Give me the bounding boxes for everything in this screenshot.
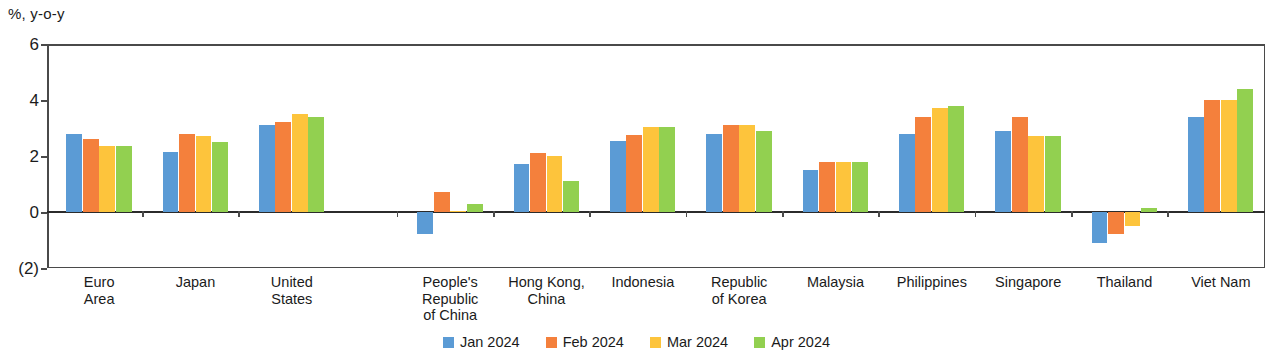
category-label: Viet Nam: [1173, 274, 1269, 291]
bar: [514, 164, 530, 212]
category-label: UnitedStates: [244, 274, 340, 307]
category-axis-tick: [1071, 211, 1073, 217]
bar: [450, 211, 466, 212]
bar: [434, 192, 450, 212]
bar: [1188, 117, 1204, 212]
bar: [66, 134, 82, 212]
bar: [99, 146, 115, 212]
category-label-line: Republic: [691, 274, 787, 291]
category-label-line: Indonesia: [595, 274, 691, 291]
axis-frame-left: [47, 44, 49, 268]
category-label-line: Singapore: [980, 274, 1076, 291]
bar: [626, 135, 642, 212]
legend-swatch-icon: [650, 337, 661, 348]
category-label-line: Area: [51, 291, 147, 308]
category-label-line: Republic: [402, 291, 498, 308]
bar: [899, 134, 915, 212]
category-label: Indonesia: [595, 274, 691, 291]
bar: [932, 108, 948, 212]
category-label-line: Euro: [51, 274, 147, 291]
bar: [995, 131, 1011, 212]
bar: [756, 131, 772, 212]
y-axis-tick: [41, 156, 47, 158]
legend-label: Apr 2024: [771, 334, 830, 350]
bar: [1028, 136, 1044, 212]
bar: [643, 127, 659, 212]
bar: [196, 136, 212, 212]
bar: [819, 162, 835, 212]
bar: [1092, 212, 1108, 243]
y-axis-tick: [41, 44, 47, 46]
bar: [852, 162, 868, 212]
bar: [1237, 89, 1253, 212]
bar: [417, 212, 433, 234]
y-axis-unit-label: %, y-o-y: [8, 5, 65, 22]
legend-item[interactable]: Feb 2024: [546, 334, 624, 350]
legend-item[interactable]: Mar 2024: [650, 334, 728, 350]
category-label-line: Viet Nam: [1173, 274, 1269, 291]
bar: [1221, 100, 1237, 212]
bar: [530, 153, 546, 212]
category-label: Malaysia: [787, 274, 883, 291]
legend-swatch-icon: [754, 337, 765, 348]
bar: [308, 117, 324, 212]
category-axis-tick: [782, 211, 784, 217]
category-label-line: Japan: [147, 274, 243, 291]
bar: [259, 125, 275, 212]
category-axis-tick: [686, 211, 688, 217]
legend-item[interactable]: Jan 2024: [443, 334, 520, 350]
bar: [803, 170, 819, 212]
chart-legend: Jan 2024Feb 2024Mar 2024Apr 2024: [0, 334, 1273, 350]
bar: [1045, 136, 1061, 212]
category-axis-tick: [975, 211, 977, 217]
bar: [1204, 100, 1220, 212]
category-label: Thailand: [1076, 274, 1172, 291]
legend-item[interactable]: Apr 2024: [754, 334, 830, 350]
bar: [116, 146, 132, 212]
category-label: Singapore: [980, 274, 1076, 291]
bar: [1141, 208, 1157, 212]
category-label-line: Philippines: [884, 274, 980, 291]
bar: [179, 134, 195, 212]
bar: [292, 114, 308, 212]
category-axis-tick: [238, 211, 240, 217]
axis-frame-bottom: [47, 267, 1265, 269]
bar: [275, 122, 291, 212]
bar: [659, 127, 675, 212]
bar: [836, 162, 852, 212]
bar: [1125, 212, 1141, 226]
y-axis-tick: [41, 100, 47, 102]
bar: [467, 204, 483, 212]
legend-label: Mar 2024: [667, 334, 728, 350]
y-axis-tick-label: 0: [30, 204, 39, 221]
bar: [212, 142, 228, 212]
category-label-line: People's: [402, 274, 498, 291]
bar: [739, 125, 755, 212]
category-label-line: Thailand: [1076, 274, 1172, 291]
category-label: Republicof Korea: [691, 274, 787, 307]
y-axis-tick: [41, 268, 47, 270]
category-axis-tick: [878, 211, 880, 217]
y-axis-tick: [41, 212, 47, 214]
category-label-line: Malaysia: [787, 274, 883, 291]
bar: [163, 152, 179, 212]
category-axis-tick: [589, 211, 591, 217]
category-label: Philippines: [884, 274, 980, 291]
category-label-line: China: [498, 291, 594, 308]
plot-area: 6420(2): [47, 44, 1265, 268]
bar: [915, 117, 931, 212]
bar: [723, 125, 739, 212]
category-label: People'sRepublicof China: [402, 274, 498, 324]
category-label: EuroArea: [51, 274, 147, 307]
legend-label: Feb 2024: [563, 334, 624, 350]
bar: [83, 139, 99, 212]
bar: [547, 156, 563, 212]
bar-chart: %, y-o-y 6420(2) EuroAreaJapanUnitedStat…: [0, 0, 1273, 356]
category-label-line: of China: [402, 307, 498, 324]
bar: [706, 134, 722, 212]
legend-swatch-icon: [443, 337, 454, 348]
category-label-line: Hong Kong,: [498, 274, 594, 291]
category-label: Japan: [147, 274, 243, 291]
bar: [948, 106, 964, 212]
category-axis-tick: [493, 211, 495, 217]
